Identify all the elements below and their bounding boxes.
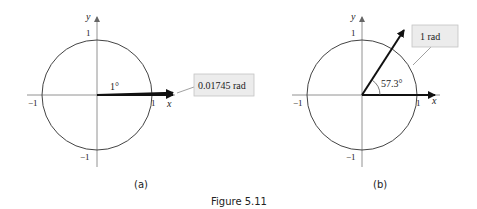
y-axis-label: y xyxy=(85,11,91,22)
callout-text: 0.01745 rad xyxy=(198,80,246,91)
angle-arc xyxy=(372,80,380,95)
panel-a: y x 1 −1 −1 1 1° 0.01745 rad (a) xyxy=(27,11,254,190)
tick-neg-y: −1 xyxy=(346,152,356,162)
figure-caption: Figure 5.11 xyxy=(211,196,267,207)
callout-leader xyxy=(177,87,194,93)
figure-canvas: y x 1 −1 −1 1 1° 0.01745 rad (a) y x 1 −… xyxy=(0,0,477,209)
callout-leader xyxy=(413,46,432,65)
tick-pos-x: 1 xyxy=(151,98,156,108)
x-axis-label: x xyxy=(431,95,437,106)
angle-label: 1° xyxy=(110,81,119,92)
panel-label-a: (a) xyxy=(134,179,148,190)
tick-pos-y: 1 xyxy=(351,28,356,38)
tick-neg-y: −1 xyxy=(80,152,90,162)
panel-b: y x 1 −1 −1 1 57.3° 1 rad (b) xyxy=(292,11,458,190)
x-axis-label: x xyxy=(166,98,172,109)
tick-pos-y: 1 xyxy=(86,28,91,38)
tick-neg-x: −1 xyxy=(28,98,38,108)
y-axis-label: y xyxy=(350,11,356,22)
tick-neg-x: −1 xyxy=(293,98,303,108)
angle-label: 57.3° xyxy=(381,78,403,89)
panel-label-b: (b) xyxy=(373,179,387,190)
tick-pos-x: 1 xyxy=(416,98,421,108)
callout-text: 1 rad xyxy=(420,31,440,42)
